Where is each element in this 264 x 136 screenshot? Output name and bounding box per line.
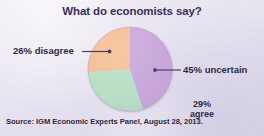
- page-title: What do economists say?: [0, 5, 264, 17]
- pie-sheen: [88, 27, 172, 111]
- source-note: Source: IGM Economic Experts Panel, Augu…: [6, 117, 203, 126]
- pie-svg: [86, 25, 174, 113]
- pie-chart: 29% agree: [86, 25, 174, 113]
- pie-chart-figure: What do economists say?: [0, 0, 264, 136]
- callout-label-uncertain: 45% uncertain: [183, 64, 247, 75]
- slice-label-agree: 29% agree: [184, 99, 220, 119]
- slice-label-agree-percent: 29%: [184, 99, 220, 109]
- callout-label-disagree: 26% disagree: [13, 45, 74, 56]
